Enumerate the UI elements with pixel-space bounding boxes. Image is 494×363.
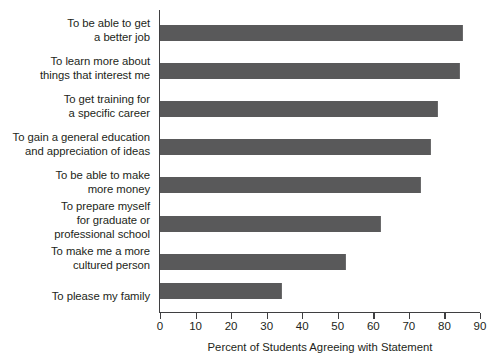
x-tick-label-70: 70 xyxy=(389,320,429,332)
bar-1 xyxy=(160,63,460,79)
x-tick-label-90: 90 xyxy=(460,320,494,332)
plot-area: 0102030405060708090 xyxy=(160,10,480,312)
x-tick-80 xyxy=(444,313,445,319)
category-label-6: To make me a more cultured person xyxy=(0,244,150,272)
bar-chart: To be able to get a better job To learn … xyxy=(0,0,494,363)
x-tick-10 xyxy=(196,313,197,319)
x-tick-label-80: 80 xyxy=(424,320,464,332)
x-axis-title: Percent of Students Agreeing with Statem… xyxy=(160,341,480,353)
x-tick-0 xyxy=(160,313,161,319)
category-label-1: To learn more about things that interest… xyxy=(0,54,150,82)
bar-7 xyxy=(160,283,282,299)
bar-3 xyxy=(160,139,431,155)
category-label-3: To gain a general education and apprecia… xyxy=(0,130,150,158)
x-tick-label-0: 0 xyxy=(140,320,180,332)
category-label-7: To please my family xyxy=(0,289,150,303)
x-tick-label-40: 40 xyxy=(282,320,322,332)
x-tick-20 xyxy=(231,313,232,319)
x-tick-60 xyxy=(373,313,374,319)
x-tick-90 xyxy=(480,313,481,319)
bar-4 xyxy=(160,177,421,193)
x-tick-40 xyxy=(302,313,303,319)
bar-2 xyxy=(160,101,438,117)
x-tick-label-50: 50 xyxy=(318,320,358,332)
category-axis-labels: To be able to get a better job To learn … xyxy=(0,10,154,312)
x-tick-label-10: 10 xyxy=(176,320,216,332)
x-tick-30 xyxy=(267,313,268,319)
category-label-4: To be able to make more money xyxy=(0,168,150,196)
x-axis-line xyxy=(159,312,480,313)
category-label-0: To be able to get a better job xyxy=(0,16,150,44)
x-tick-50 xyxy=(338,313,339,319)
x-tick-label-60: 60 xyxy=(353,320,393,332)
x-tick-70 xyxy=(409,313,410,319)
category-label-5: To prepare myself for graduate or profes… xyxy=(0,199,150,242)
x-tick-label-30: 30 xyxy=(247,320,287,332)
bar-6 xyxy=(160,254,346,270)
x-tick-label-20: 20 xyxy=(211,320,251,332)
category-label-2: To get training for a specific career xyxy=(0,92,150,120)
bar-0 xyxy=(160,25,463,41)
bar-5 xyxy=(160,216,381,232)
